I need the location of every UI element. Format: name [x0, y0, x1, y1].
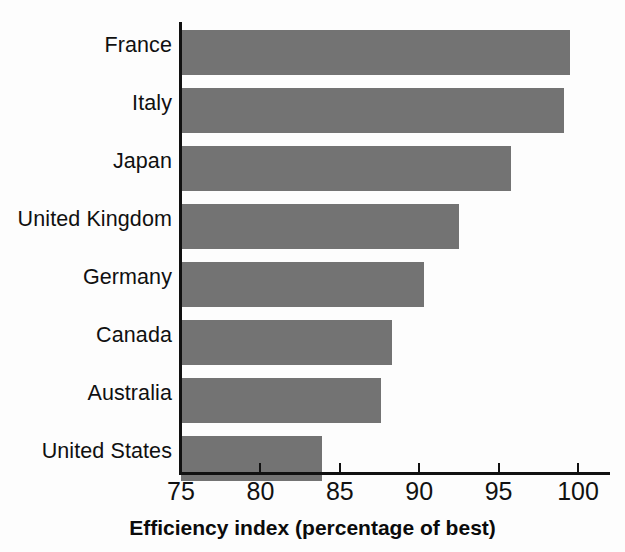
bar-france[interactable]: [181, 30, 570, 75]
x-tick-90: [418, 463, 420, 473]
x-axis-title-main: Efficiency index: [129, 516, 289, 539]
category-label-france: France: [104, 33, 172, 58]
category-label-australia: Australia: [87, 381, 172, 406]
x-tick-100: [577, 463, 579, 473]
x-tick-label-90: 90: [405, 479, 433, 504]
y-axis-line: [179, 22, 182, 474]
category-label-united-kingdom: United Kingdom: [18, 207, 172, 232]
x-tick-75: [180, 463, 182, 473]
x-axis-line: [179, 472, 610, 475]
category-label-japan: Japan: [113, 149, 172, 174]
category-label-italy: Italy: [132, 91, 172, 116]
x-tick-label-85: 85: [326, 479, 354, 504]
category-label-united-states: United States: [42, 439, 172, 464]
x-tick-label-75: 75: [167, 479, 195, 504]
x-tick-label-95: 95: [485, 479, 513, 504]
x-tick-label-100: 100: [557, 479, 599, 504]
bar-united-kingdom[interactable]: [181, 204, 459, 249]
x-tick-95: [498, 463, 500, 473]
x-tick-85: [339, 463, 341, 473]
x-axis-title: Efficiency index(percentage of best): [0, 516, 625, 540]
bar-germany[interactable]: [181, 262, 424, 307]
x-tick-label-80: 80: [246, 479, 274, 504]
category-label-canada: Canada: [96, 323, 172, 348]
bar-japan[interactable]: [181, 146, 511, 191]
bar-canada[interactable]: [181, 320, 392, 365]
x-axis-title-note: (percentage of best): [295, 516, 496, 539]
bar-australia[interactable]: [181, 378, 381, 423]
category-label-germany: Germany: [83, 265, 172, 290]
x-tick-80: [259, 463, 261, 473]
bar-chart: France Italy Japan United Kingdom German…: [0, 0, 625, 552]
plot-area: [181, 22, 625, 472]
bar-italy[interactable]: [181, 88, 564, 133]
